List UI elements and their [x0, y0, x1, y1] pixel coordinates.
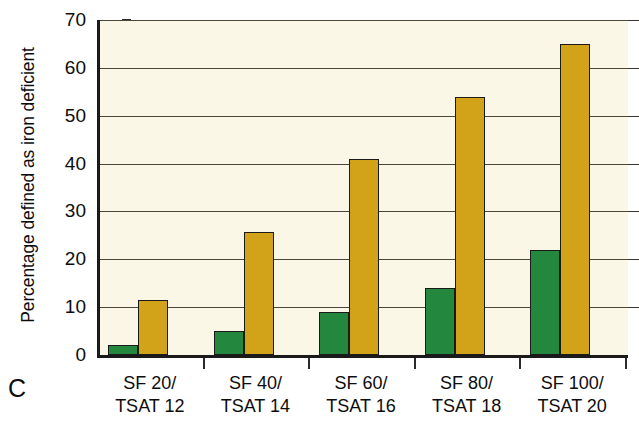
chart-figure: Percentage defined as iron deficient 010… — [0, 0, 639, 430]
x-axis-tick-mark — [519, 358, 521, 369]
panel-label: C — [8, 374, 26, 402]
y-axis-tick-labels: 010203040506070 — [34, 0, 86, 380]
y-axis-tick-label: 70 — [34, 10, 86, 29]
x-axis-tick-label: SF 40/TSAT 14 — [199, 372, 311, 417]
bar — [108, 345, 138, 355]
bar — [530, 250, 560, 355]
gridline-tick — [628, 211, 639, 212]
x-axis-tick-label: SF 100/TSAT 20 — [516, 372, 628, 417]
x-axis-tick-mark — [625, 358, 627, 369]
bar — [319, 312, 349, 355]
x-axis-tick-mark — [308, 358, 310, 369]
gridline-tick — [628, 307, 639, 308]
bar-group — [206, 20, 312, 355]
bar — [560, 44, 590, 355]
x-axis-tick-label-line: TSAT 14 — [199, 395, 311, 418]
y-axis-tick-label: 60 — [34, 58, 86, 77]
x-axis-tick-label-line: TSAT 20 — [516, 395, 628, 418]
gridline-tick — [628, 116, 639, 117]
y-axis-tick-label: 30 — [34, 201, 86, 220]
bar-group — [522, 20, 628, 355]
bar-group — [311, 20, 417, 355]
bar-group — [100, 20, 206, 355]
bar-group — [417, 20, 523, 355]
gridline-tick — [628, 164, 639, 165]
y-axis-tick-label: 40 — [34, 154, 86, 173]
x-axis-tick-label-line: SF 80/ — [411, 372, 523, 395]
x-axis-tick-label: SF 60/TSAT 16 — [305, 372, 417, 417]
x-axis-tick-label-line: SF 60/ — [305, 372, 417, 395]
gridline-tick — [628, 259, 639, 260]
gridline-tick — [628, 68, 639, 69]
bar — [244, 232, 274, 355]
x-axis-tick-label: SF 80/TSAT 18 — [411, 372, 523, 417]
y-axis-tick-label: 50 — [34, 106, 86, 125]
x-axis-tick-label-line: TSAT 16 — [305, 395, 417, 418]
x-axis-tick-label-line: SF 100/ — [516, 372, 628, 395]
plot-area — [97, 20, 628, 358]
y-axis-tick-label: 20 — [34, 249, 86, 268]
bar — [455, 97, 485, 355]
bar — [349, 159, 379, 355]
bar — [425, 288, 455, 355]
x-axis-tick-label: SF 20/TSAT 12 — [94, 372, 206, 417]
x-axis-tick-label-line: TSAT 18 — [411, 395, 523, 418]
bars-layer — [100, 20, 628, 355]
x-axis-tick-label-line: TSAT 12 — [94, 395, 206, 418]
bar — [214, 331, 244, 355]
bar — [138, 300, 168, 355]
y-axis-tick-label: 0 — [34, 345, 86, 364]
x-axis-tick-label-line: SF 20/ — [94, 372, 206, 395]
x-axis-tick-mark — [414, 358, 416, 369]
y-axis-tick-label: 10 — [34, 297, 86, 316]
x-axis: SF 20/TSAT 12SF 40/TSAT 14SF 60/TSAT 16S… — [97, 358, 628, 430]
gridline-tick — [628, 20, 639, 21]
x-axis-tick-label-line: SF 40/ — [199, 372, 311, 395]
x-axis-tick-mark — [203, 358, 205, 369]
